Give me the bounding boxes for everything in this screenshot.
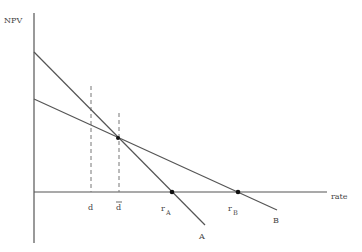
r-b-label: r B — [228, 204, 238, 217]
r-b-sub: B — [233, 209, 238, 217]
y-axis-label: NPV — [4, 16, 22, 25]
d-label: d — [88, 203, 93, 212]
r-a-sub: A — [165, 209, 171, 217]
r-b-r: r — [228, 204, 232, 213]
r-a-dot — [170, 190, 175, 195]
r-a-label: r A — [161, 204, 171, 217]
npv-diagram: NPV rate d d r A r B A B — [0, 0, 362, 252]
line-b-label: B — [273, 216, 279, 225]
line-b — [34, 99, 277, 210]
r-a-r: r — [161, 204, 165, 213]
d-bar-label: d — [116, 203, 121, 212]
intersection-dot — [116, 136, 120, 140]
d-bar-label-group: d — [116, 202, 122, 212]
r-b-dot — [236, 190, 241, 195]
line-a-label: A — [198, 232, 205, 241]
x-axis-label: rate — [331, 192, 348, 201]
